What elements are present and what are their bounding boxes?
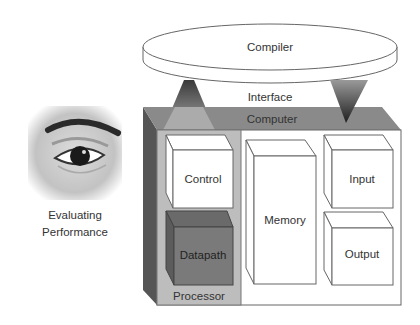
eye-icon xyxy=(28,106,122,200)
evaluating-performance-caption: Evaluating Performance xyxy=(42,207,108,241)
diagram-canvas xyxy=(0,0,420,325)
caption-line-1: Evaluating xyxy=(42,207,108,224)
output-label: Output xyxy=(345,247,380,261)
computer-label: Computer xyxy=(247,112,298,126)
compiler-label: Compiler xyxy=(247,40,293,54)
interface-label: Interface xyxy=(248,90,293,104)
memory-box xyxy=(246,140,316,284)
processor-label: Processor xyxy=(173,289,225,303)
control-label: Control xyxy=(184,172,221,186)
memory-label: Memory xyxy=(264,213,306,227)
datapath-label: Datapath xyxy=(180,248,227,262)
computer-side-face xyxy=(143,107,157,305)
input-label: Input xyxy=(349,172,375,186)
caption-line-2: Performance xyxy=(42,224,108,241)
